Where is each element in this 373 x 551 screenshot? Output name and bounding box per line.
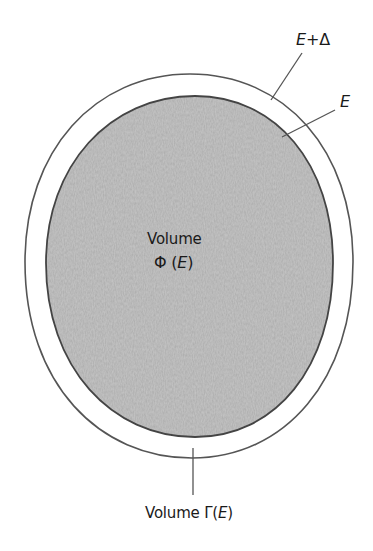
label-volume-phi-title: Volume [147,231,202,247]
phase-space-diagram: E+Δ E Volume Φ (E) Volume Γ(E) [0,0,373,551]
label-e-plus-delta: E+Δ [296,32,330,48]
phi-argument: E [177,253,187,272]
diagram-canvas [0,0,373,551]
label-e: E [340,94,350,110]
label-volume-gamma: Volume Γ(E) [145,505,233,521]
phi-symbol: Φ [154,253,166,272]
gamma-title: Volume [145,504,200,522]
gamma-symbol: Γ [204,504,212,522]
label-e-plus-delta-delta: Δ [319,30,330,49]
gamma-argument: E [218,504,227,522]
label-volume-phi-expression: Φ (E) [154,255,193,271]
label-e-plus-delta-var: E [296,30,306,49]
leader-line-e-plus-delta [271,53,302,100]
label-e-plus-delta-op: + [306,30,319,49]
